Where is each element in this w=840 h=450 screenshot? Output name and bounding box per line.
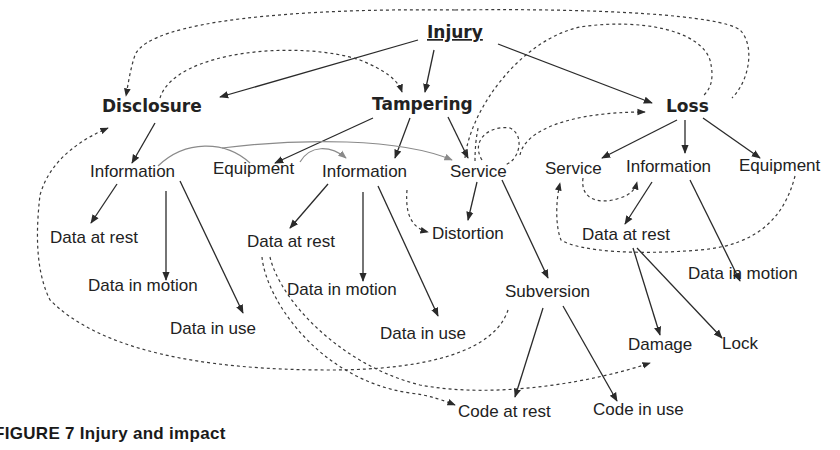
node-tampering-data-in-use: Data in use [380,324,466,343]
node-loss: Loss [666,96,709,116]
node-tampering-data-in-motion: Data in motion [287,280,397,299]
node-loss-information: Information [626,157,711,176]
node-disclosure-data-in-use: Data in use [170,319,256,338]
node-lock: Lock [722,334,758,353]
figure-caption: FIGURE 7 Injury and impact [0,424,226,444]
node-loss-data-at-rest: Data at rest [582,225,670,244]
node-loss-data-in-motion: Data in motion [688,264,798,283]
node-loss-service: Service [545,159,602,178]
node-damage: Damage [628,335,692,354]
node-distortion: Distortion [432,224,504,243]
node-disclosure-data-in-motion: Data in motion [88,276,198,295]
node-tampering-equipment: Equipment [213,159,295,178]
node-subversion: Subversion [505,282,590,301]
node-disclosure: Disclosure [102,96,202,116]
gray-edges [158,142,452,166]
node-loss-equipment: Equipment [739,156,821,175]
node-code-in-use: Code in use [593,400,684,419]
node-disclosure-data-at-rest: Data at rest [50,228,138,247]
node-tampering-information: Information [322,162,407,181]
node-tampering: Tampering [372,94,473,114]
node-disclosure-information: Information [90,162,175,181]
node-tampering-data-at-rest: Data at rest [247,232,335,251]
node-tampering-service: Service [450,162,507,181]
injury-impact-diagram: Injury Disclosure Tampering Loss Informa… [0,0,840,450]
node-injury: Injury [427,22,483,42]
node-code-at-rest: Code at rest [458,402,551,421]
